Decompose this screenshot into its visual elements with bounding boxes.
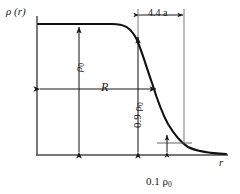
ten-percent-label: 0.1 ρ0 xyxy=(146,176,172,189)
ten-percent-text: 0.1 ρ xyxy=(146,175,168,187)
rho0-symbol: ρ xyxy=(72,67,84,72)
skin-thickness-label: 4.4 a xyxy=(148,8,167,18)
radius-label: R xyxy=(101,81,108,93)
ten-percent-subscript: 0 xyxy=(168,180,172,189)
density-profile-figure: ρ (r) r ρ0 R 4.4 a 0.9 ρ0 0.1 ρ0 xyxy=(0,0,240,194)
axes xyxy=(36,16,228,156)
x-axis-label: r xyxy=(219,157,223,168)
ninety-percent-text: 0.9 ρ xyxy=(131,106,143,128)
skin-thickness-dimension xyxy=(138,9,184,143)
rho0-subscript: 0 xyxy=(77,63,86,67)
y-axis-label: ρ (r) xyxy=(6,6,26,17)
skin-thickness-text: 4.4 a xyxy=(148,7,167,18)
ten-percent-dimension xyxy=(157,135,192,152)
ninety-percent-subscript: 0 xyxy=(136,102,145,106)
ninety-percent-label: 0.9 ρ0 xyxy=(132,102,145,128)
figure-canvas xyxy=(0,0,240,194)
rho0-label: ρ0 xyxy=(73,63,86,72)
